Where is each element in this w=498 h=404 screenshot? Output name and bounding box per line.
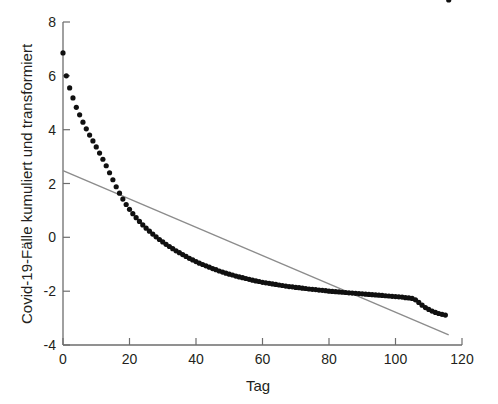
x-axis-title: Tag [246, 377, 270, 394]
data-point [446, 0, 451, 3]
data-point [120, 197, 125, 202]
y-tick-label: 2 [48, 176, 56, 192]
data-point [94, 144, 99, 149]
data-point [107, 170, 112, 175]
y-axis-ticks [63, 22, 70, 345]
data-point [74, 105, 79, 110]
data-point-series [60, 0, 451, 318]
y-tick-label: -2 [44, 283, 57, 299]
y-tick-label: 0 [48, 229, 56, 245]
data-point [443, 313, 448, 318]
x-axis-ticks [63, 338, 462, 345]
x-tick-label: 60 [255, 351, 271, 367]
y-axis-title: Covid-19-Fälle kumuliert und transformie… [18, 43, 35, 324]
x-tick-label: 20 [122, 351, 138, 367]
y-tick-label: 4 [48, 122, 56, 138]
x-tick-label: 80 [321, 351, 337, 367]
x-tick-label: 100 [384, 351, 408, 367]
y-tick-label: 8 [48, 14, 56, 30]
data-point [77, 112, 82, 117]
y-tick-label: 6 [48, 68, 56, 84]
data-point [127, 207, 132, 212]
data-point [124, 202, 129, 207]
chart-figure: 8 6 4 2 0 -2 -4 0 20 40 60 80 100 120 Ta… [0, 0, 498, 404]
data-point [110, 177, 115, 182]
data-point [84, 126, 89, 131]
chart-plot-area: 8 6 4 2 0 -2 -4 0 20 40 60 80 100 120 Ta… [0, 0, 498, 404]
data-point [114, 184, 119, 189]
data-point [87, 132, 92, 137]
data-point [80, 120, 85, 125]
x-tick-label: 120 [450, 351, 474, 367]
data-point [90, 138, 95, 143]
y-axis-tick-labels: 8 6 4 2 0 -2 -4 [44, 14, 57, 353]
data-point [64, 73, 69, 78]
x-tick-label: 40 [188, 351, 204, 367]
x-axis-tick-labels: 0 20 40 60 80 100 120 [59, 351, 474, 367]
data-point [70, 95, 75, 100]
data-point [100, 157, 105, 162]
data-point [60, 50, 65, 55]
data-point [130, 211, 135, 216]
data-point [97, 150, 102, 155]
data-point [67, 85, 72, 90]
y-tick-label: -4 [44, 337, 57, 353]
data-point [104, 163, 109, 168]
data-point [117, 191, 122, 196]
x-tick-label: 0 [59, 351, 67, 367]
